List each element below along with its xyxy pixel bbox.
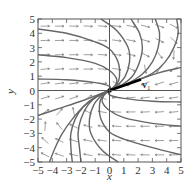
field-arrow xyxy=(57,123,63,130)
y-tick-label: −3 xyxy=(23,127,35,139)
y-tick-label: −1 xyxy=(23,99,35,111)
phase-portrait-chart: −5−4−3−2−1012345−5−4−3−2−1012345 x y v1 xyxy=(0,0,193,185)
eigenvector-v1 xyxy=(110,79,141,90)
field-arrow xyxy=(42,138,49,144)
y-tick-label: 5 xyxy=(30,13,36,25)
y-tick-label: 0 xyxy=(30,85,36,97)
field-arrow xyxy=(70,124,78,128)
x-tick-label: 3 xyxy=(150,164,156,176)
field-arrow xyxy=(41,153,49,157)
x-tick-label: −2 xyxy=(75,164,87,176)
x-tick-label: 1 xyxy=(121,164,127,176)
x-tick-label: 2 xyxy=(135,164,141,176)
field-arrow xyxy=(170,24,178,28)
y-tick-label: 1 xyxy=(30,70,36,82)
x-tick-label: −4 xyxy=(46,164,58,176)
y-tick-label: −4 xyxy=(23,142,35,154)
y-axis-label: y xyxy=(4,89,16,95)
y-tick-label: 3 xyxy=(30,42,36,54)
x-tick-label: −3 xyxy=(61,164,73,176)
y-tick-label: 2 xyxy=(30,56,36,68)
x-tick-label: 4 xyxy=(164,164,170,176)
y-tick-label: 4 xyxy=(30,27,36,39)
eigenvector-label-sub: 1 xyxy=(147,84,151,92)
x-axis-label: x xyxy=(106,170,112,182)
y-tick-label: −2 xyxy=(23,113,35,125)
y-tick-label: −5 xyxy=(23,156,35,168)
field-arrow xyxy=(157,51,163,58)
x-tick-label: −1 xyxy=(89,164,101,176)
trajectory-t3 xyxy=(38,79,111,90)
trajectory-t9 xyxy=(108,91,181,102)
x-tick-label: 5 xyxy=(178,164,184,176)
